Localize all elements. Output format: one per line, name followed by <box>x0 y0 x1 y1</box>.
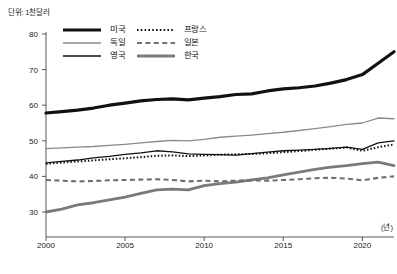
x-tick-label: 2000 <box>26 241 66 250</box>
series-line-독일 <box>46 118 394 149</box>
x-tick-label: 2005 <box>105 241 145 250</box>
y-tick-label: 40 <box>16 172 38 181</box>
y-tick-label: 50 <box>16 136 38 145</box>
x-tick-label: 2015 <box>263 241 303 250</box>
y-tick-label: 70 <box>16 65 38 74</box>
series-line-영국 <box>46 141 394 163</box>
chart-container: 단위: 1천달러 미국 프랑스 독일 일본 영국 한국 (년) 30405060… <box>0 0 397 274</box>
plot-area <box>0 0 397 274</box>
y-tick-label: 60 <box>16 101 38 110</box>
series-line-한국 <box>46 162 394 212</box>
series-line-미국 <box>46 52 394 113</box>
y-tick-label: 30 <box>16 208 38 217</box>
y-tick-label: 80 <box>16 30 38 39</box>
series-line-일본 <box>46 176 394 181</box>
x-tick-label: 2020 <box>342 241 382 250</box>
x-tick-label: 2010 <box>184 241 224 250</box>
